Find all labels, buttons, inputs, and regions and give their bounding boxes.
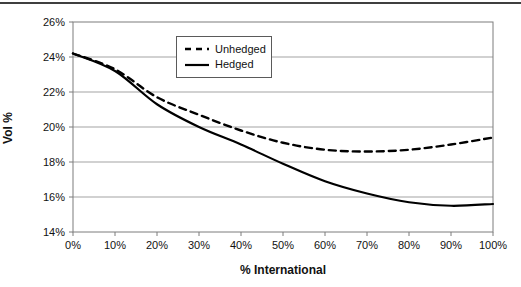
y-tick-label: 26%: [43, 16, 65, 28]
legend: Unhedged Hedged: [176, 36, 272, 78]
x-tick-label: 80%: [398, 239, 420, 251]
y-tick-label: 20%: [43, 121, 65, 133]
x-tick-label: 70%: [356, 239, 378, 251]
x-axis-title: % International: [73, 263, 493, 277]
y-tick-label: 22%: [43, 86, 65, 98]
x-tick-label: 50%: [272, 239, 294, 251]
x-tick-label: 40%: [230, 239, 252, 251]
x-tick-label: 60%: [314, 239, 336, 251]
x-tick-label: 100%: [479, 239, 507, 251]
y-tick-label: 16%: [43, 191, 65, 203]
series-line-unhedged: [73, 54, 493, 152]
chart-figure: 14%16%18%20%22%24%26%0%10%20%30%40%50%60…: [0, 0, 521, 287]
legend-item-hedged: Hedged: [184, 59, 271, 70]
legend-label-unhedged: Unhedged: [215, 44, 266, 55]
solid-line-sample-icon: [184, 62, 210, 68]
legend-label-hedged: Hedged: [215, 59, 254, 70]
x-tick-label: 30%: [188, 239, 210, 251]
series-line-hedged: [73, 54, 493, 206]
x-tick-label: 90%: [440, 239, 462, 251]
x-tick-label: 20%: [146, 239, 168, 251]
x-tick-label: 10%: [104, 239, 126, 251]
x-tick-label: 0%: [65, 239, 81, 251]
dashed-line-sample-icon: [184, 46, 210, 52]
y-tick-label: 24%: [43, 51, 65, 63]
y-tick-label: 14%: [43, 226, 65, 238]
y-axis-title: Vol %: [1, 78, 15, 178]
legend-item-unhedged: Unhedged: [184, 44, 271, 55]
y-tick-label: 18%: [43, 156, 65, 168]
